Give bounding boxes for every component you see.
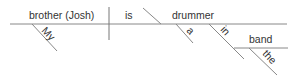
sentence-diagram: brother (Josh) is drummer My a in band t… xyxy=(0,0,298,80)
predicate-nominative-word: drummer xyxy=(172,9,215,21)
predicate-modifier-word: a xyxy=(185,24,198,37)
predicate-nominative-slant xyxy=(143,8,161,24)
object-modifier-word: the xyxy=(261,47,280,66)
verb-word: is xyxy=(125,9,133,21)
subject-word: brother (Josh) xyxy=(29,9,94,21)
prepositional-object-word: band xyxy=(249,33,273,45)
subject-modifier-word: My xyxy=(40,24,59,43)
